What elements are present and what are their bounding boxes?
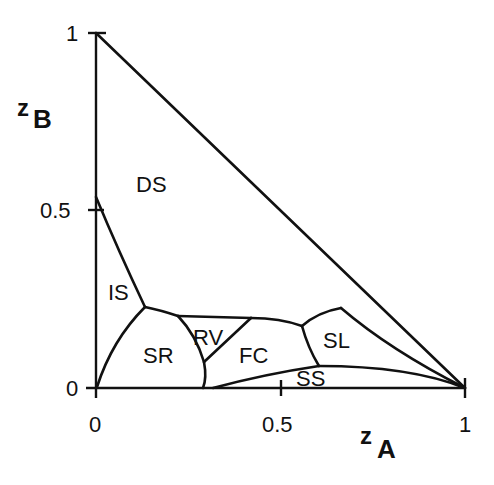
- boundary-ds-fc: [251, 318, 302, 326]
- region-label-sl: SL: [323, 328, 350, 353]
- y-tick-label-1: 1: [66, 21, 78, 46]
- hypotenuse-line: [96, 33, 465, 388]
- boundary-fc-sl: [302, 326, 319, 366]
- x-tick-label-0: 0: [89, 412, 101, 437]
- y-tick-label-0: 0: [66, 376, 78, 401]
- x-axis-title-sub: A: [377, 434, 396, 464]
- y-axis-title-sub: B: [33, 104, 52, 134]
- x-tick-label-05: 0.5: [262, 412, 293, 437]
- region-label-fc: FC: [239, 343, 268, 368]
- x-tick-label-1: 1: [459, 412, 471, 437]
- region-label-ds: DS: [136, 172, 167, 197]
- region-label-sr: SR: [143, 343, 174, 368]
- boundary-sl-upper: [341, 308, 465, 388]
- region-label-rv: RV: [193, 325, 223, 350]
- y-tick-label-05: 0.5: [40, 198, 71, 223]
- x-axis-title: z A: [360, 422, 396, 464]
- boundary-ds-sl: [302, 308, 341, 326]
- region-label-is: IS: [108, 280, 129, 305]
- boundary-ds-sr: [145, 307, 178, 316]
- boundary-sr-fc: [203, 362, 205, 388]
- y-axis-title-main: z: [17, 94, 29, 121]
- boundary-is-sr: [97, 307, 145, 387]
- region-label-ss: SS: [296, 366, 325, 391]
- x-axis-title-main: z: [360, 422, 372, 449]
- y-axis-title: z B: [17, 94, 52, 134]
- boundary-ds-rv: [178, 316, 251, 318]
- phase-diagram: 1 0.5 0 0 0.5 1 z B z A DS IS SR RV FC S…: [0, 0, 494, 485]
